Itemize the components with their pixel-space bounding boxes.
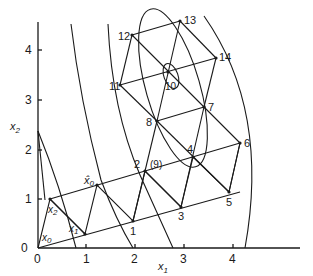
- x-tick-1: 1: [83, 252, 90, 266]
- y-tick-3: 3: [25, 93, 32, 107]
- label-point-6: 6: [244, 137, 250, 149]
- x-tick-2: 2: [131, 252, 138, 266]
- x2-axis-label: x2: [9, 120, 21, 135]
- label-point-2: 2: [134, 158, 140, 170]
- label-x0-hat: x̂0: [83, 174, 95, 188]
- label-point-14: 14: [219, 51, 231, 63]
- pattern-search-diagram: 0 1 2 3 4 0 1 2 3 4 x2 x1: [0, 0, 313, 276]
- label-point-10: 10: [165, 81, 177, 92]
- label-point-3: 3: [178, 210, 184, 222]
- y-tick-2: 2: [25, 143, 32, 157]
- origin-label: 0: [21, 241, 28, 255]
- label-point-8: 8: [146, 116, 152, 128]
- x-tick-3: 3: [180, 252, 187, 266]
- label-point-11: 11: [109, 80, 120, 92]
- points: [48, 19, 241, 235]
- label-x1-prime: x1: [68, 223, 78, 236]
- x1-axis-label: x1: [157, 260, 168, 275]
- label-point-13: 13: [184, 14, 196, 26]
- label-point-1: 1: [130, 225, 136, 237]
- x-tick-0: 0: [34, 252, 41, 266]
- y-tick-1: 1: [25, 192, 32, 206]
- label-point-9: (9): [150, 159, 162, 170]
- label-point-7: 7: [208, 101, 214, 113]
- label-point-12: 12: [118, 30, 130, 42]
- y-tick-4: 4: [25, 43, 32, 57]
- label-x0-prime: x0: [41, 232, 52, 245]
- label-point-5: 5: [226, 196, 232, 208]
- x-tick-4: 4: [229, 252, 236, 266]
- diagram-canvas: 0 1 2 3 4 0 1 2 3 4 x2 x1: [0, 0, 313, 276]
- label-point-4: 4: [187, 143, 193, 155]
